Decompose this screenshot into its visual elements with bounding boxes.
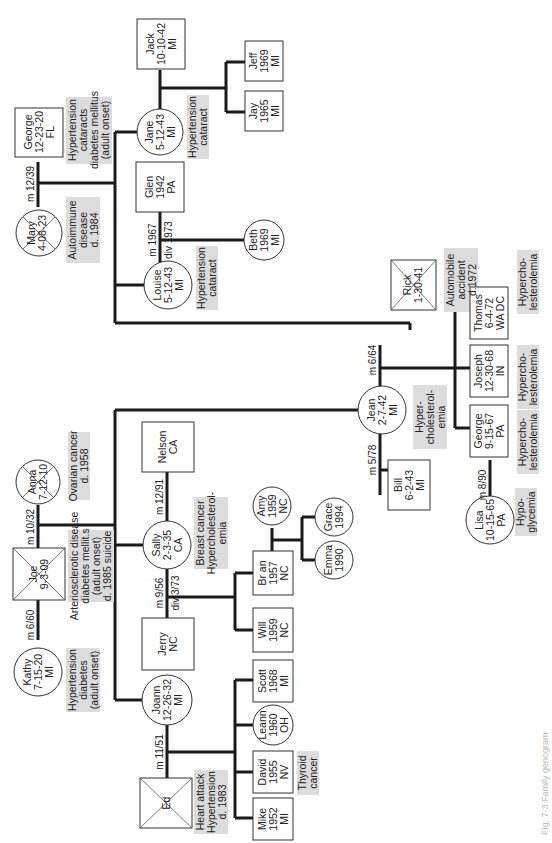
relation-label: m 12/91 [154,478,165,515]
person-label-emma: Emma1990 [322,545,345,575]
person-label-thomas: Thomas6-4-72WA DC [472,294,506,332]
person-label-grace: Grace1994 [322,503,345,532]
relation-label: m 1967 [147,223,158,257]
health-note-george_sr: Hypertensioncataractsdiabetes mellitus(a… [66,91,111,169]
person-label-ed: Ed [160,796,172,809]
relation-label: m 5/78 [367,444,378,475]
relation-label: m 9/56 [154,577,165,608]
relation-label: m 6/64 [367,344,378,375]
relation-label: m 8/90 [477,469,488,500]
health-note-joseph: Hypercho-lesterolemia [516,349,539,406]
relation-label: div 1973 [163,221,174,259]
relation-label: div 3/73 [170,575,181,610]
relation-label: m 10/32 [25,508,36,545]
relation-label: m 12/39 [25,165,36,202]
relation-label: m 11/51 [154,734,165,770]
relation-label: m 6/60 [25,609,36,640]
figure-caption: Fig. 7-3 Family genogram [540,732,550,835]
health-note-george_jr: Hypercho-lesterolemia [516,414,539,471]
health-note-david: Thyroidcancer [296,755,319,790]
health-note-thomas: Hypercho-lesterolemia [516,254,539,311]
genogram: George12-23-20FLMary4-08-23Jack10-10-42M… [0,0,552,843]
health-note-joe: Arteriosclerotic diseasediabetes mellit.… [68,512,113,621]
